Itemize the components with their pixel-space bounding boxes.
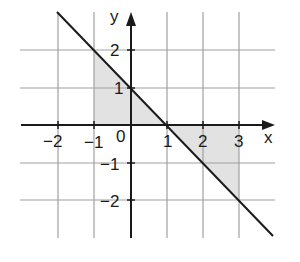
x-tick-label: 3 <box>234 132 243 151</box>
x-tick-label: −1 <box>84 133 103 152</box>
y-tick-label: 2 <box>110 41 119 60</box>
x-tick-label: −2 <box>43 132 62 151</box>
coordinate-plane: y x 0 −2 −1 1 2 3 2 1 −1 −2 <box>0 0 300 262</box>
y-tick-label: −2 <box>100 192 119 211</box>
x-tick-label: 2 <box>198 132 207 151</box>
y-tick-label: −1 <box>100 155 119 174</box>
y-tick-label: 1 <box>114 79 123 98</box>
x-tick-label: 1 <box>163 132 172 151</box>
x-axis-label: x <box>264 128 273 147</box>
y-axis-arrow-icon <box>126 12 136 26</box>
origin-label: 0 <box>116 127 125 146</box>
y-axis-label: y <box>110 7 119 26</box>
